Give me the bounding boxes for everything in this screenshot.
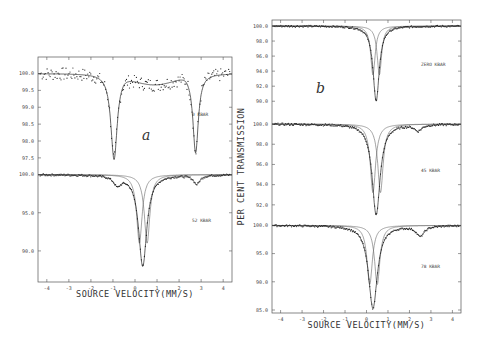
- data-point: [128, 75, 129, 76]
- data-point: [408, 26, 409, 27]
- data-point: [210, 77, 211, 78]
- data-point: [68, 73, 69, 74]
- data-point: [44, 74, 45, 75]
- data-point: [335, 125, 336, 126]
- data-point: [276, 25, 277, 26]
- data-point: [293, 125, 294, 126]
- data-point: [386, 140, 387, 141]
- data-point: [322, 124, 323, 125]
- data-point: [127, 184, 128, 185]
- data-point: [334, 226, 335, 227]
- data-point: [204, 77, 205, 78]
- data-point: [332, 123, 333, 124]
- data-point: [80, 76, 81, 77]
- data-point: [111, 138, 112, 139]
- data-point: [69, 71, 70, 72]
- data-point: [439, 226, 440, 227]
- data-point: [95, 175, 96, 176]
- data-point: [171, 178, 172, 179]
- data-point: [227, 75, 228, 76]
- data-point: [303, 27, 304, 28]
- data-point: [154, 187, 155, 188]
- data-point: [349, 28, 350, 29]
- y-tick-label: 96.0: [256, 53, 268, 59]
- data-point: [348, 126, 349, 127]
- data-point: [382, 45, 383, 46]
- data-point: [110, 178, 111, 179]
- data-point: [184, 175, 185, 176]
- data-point: [105, 89, 106, 90]
- subplot-0-kbar: 100.099.599.098.598.097.50 KBAR: [19, 67, 232, 160]
- data-point: [279, 226, 280, 227]
- data-point: [150, 80, 151, 81]
- data-point: [335, 228, 336, 229]
- data-point: [160, 90, 161, 91]
- data-point: [411, 25, 412, 26]
- data-point: [118, 108, 119, 109]
- data-point: [341, 228, 342, 229]
- data-point: [88, 76, 89, 77]
- data-point: [207, 176, 208, 177]
- y-tick-label: 95.0: [22, 210, 34, 216]
- data-point: [325, 123, 326, 124]
- data-point: [95, 83, 96, 84]
- data-point: [179, 176, 180, 177]
- data-point: [54, 175, 55, 176]
- data-point: [377, 208, 378, 209]
- data-point: [40, 73, 41, 74]
- data-point: [143, 89, 144, 90]
- data-point: [79, 175, 80, 176]
- data-point: [452, 125, 453, 126]
- data-point: [393, 28, 394, 29]
- data-point: [43, 173, 44, 174]
- data-point: [164, 85, 165, 86]
- data-point: [81, 174, 82, 175]
- data-point: [333, 126, 334, 127]
- data-point: [319, 25, 320, 26]
- data-point: [109, 107, 110, 108]
- data-point: [380, 59, 381, 60]
- data-point: [180, 176, 181, 177]
- data-point: [200, 100, 201, 101]
- data-point: [318, 226, 319, 227]
- data-point: [285, 25, 286, 26]
- data-point: [373, 307, 374, 308]
- data-point: [211, 74, 212, 75]
- data-point: [297, 25, 298, 26]
- data-point: [124, 183, 125, 184]
- data-point: [347, 26, 348, 27]
- data-point: [372, 67, 373, 68]
- data-point: [371, 173, 372, 174]
- data-point: [93, 77, 94, 78]
- data-point: [337, 27, 338, 28]
- data-point: [94, 82, 95, 83]
- data-point: [323, 225, 324, 226]
- data-point: [449, 26, 450, 27]
- y-tick-label: 98.0: [22, 138, 34, 144]
- data-point: [52, 71, 53, 72]
- data-point: [104, 81, 105, 82]
- data-point: [375, 291, 376, 292]
- data-point: [154, 91, 155, 92]
- data-point: [63, 174, 64, 175]
- data-point: [386, 237, 387, 238]
- data-point: [91, 80, 92, 81]
- data-point: [223, 76, 224, 77]
- data-point: [306, 226, 307, 227]
- data-point: [163, 89, 164, 90]
- x-tick-label: 4: [451, 316, 454, 322]
- data-point: [43, 77, 44, 78]
- data-point: [369, 45, 370, 46]
- data-point: [427, 126, 428, 127]
- data-point: [424, 230, 425, 231]
- data-point: [162, 84, 163, 85]
- data-point: [46, 174, 47, 175]
- data-point: [96, 78, 97, 79]
- data-point: [292, 26, 293, 27]
- data-point: [58, 73, 59, 74]
- data-point: [89, 72, 90, 73]
- data-point: [116, 129, 117, 130]
- data-point: [148, 215, 149, 216]
- data-point: [98, 76, 99, 77]
- data-point: [229, 71, 230, 72]
